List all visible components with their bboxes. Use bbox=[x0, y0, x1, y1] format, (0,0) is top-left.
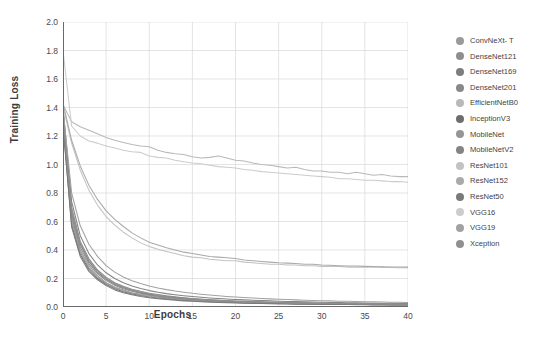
legend-color-swatch-icon bbox=[456, 240, 464, 248]
legend-item[interactable]: DenseNet201 bbox=[456, 80, 552, 96]
legend-label: ResNet152 bbox=[470, 177, 508, 185]
legend-item[interactable]: EfficientNetB0 bbox=[456, 95, 552, 111]
legend-item[interactable]: MobileNetV2 bbox=[456, 142, 552, 158]
legend-label: DenseNet201 bbox=[470, 84, 516, 92]
legend-item[interactable]: ResNet101 bbox=[456, 158, 552, 174]
legend-color-swatch-icon bbox=[456, 84, 464, 92]
x-axis-tick-label: 35 bbox=[350, 311, 380, 321]
y-axis-tick-labels: 0.00.20.40.60.81.01.21.41.61.82.0 bbox=[20, 22, 58, 307]
legend-color-swatch-icon bbox=[456, 162, 464, 170]
legend-label: DenseNet169 bbox=[470, 68, 516, 76]
legend-item[interactable]: VGG19 bbox=[456, 220, 552, 236]
legend-color-swatch-icon bbox=[456, 99, 464, 107]
legend-item[interactable]: ResNet152 bbox=[456, 173, 552, 189]
legend-item[interactable]: DenseNet169 bbox=[456, 64, 552, 80]
legend-label: VGG16 bbox=[470, 209, 495, 217]
y-axis-tick-label: 0.6 bbox=[24, 217, 58, 227]
legend-label: ResNet50 bbox=[470, 193, 504, 201]
legend-label: ResNet101 bbox=[470, 162, 508, 170]
legend-color-swatch-icon bbox=[456, 115, 464, 123]
legend-item[interactable]: InceptionV3 bbox=[456, 111, 552, 127]
legend-item[interactable]: Xception bbox=[456, 236, 552, 252]
legend-label: MobileNetV2 bbox=[470, 146, 513, 154]
legend-color-swatch-icon bbox=[456, 177, 464, 185]
chart-legend: ConvNeXt- TDenseNet121DenseNet169DenseNe… bbox=[456, 33, 552, 251]
y-axis-tick-label: 1.6 bbox=[24, 74, 58, 84]
y-axis-tick-label: 1.4 bbox=[24, 103, 58, 113]
legend-label: ConvNeXt- T bbox=[470, 37, 514, 45]
legend-item[interactable]: VGG16 bbox=[456, 205, 552, 221]
legend-color-swatch-icon bbox=[456, 208, 464, 216]
legend-color-swatch-icon bbox=[456, 193, 464, 201]
x-axis-title: Epochs bbox=[0, 309, 345, 320]
chart-screenshot: 0.00.20.40.60.81.01.21.41.61.82.0 051015… bbox=[0, 0, 556, 362]
y-axis-tick-label: 1.2 bbox=[24, 131, 58, 141]
y-axis-tick-label: 0.8 bbox=[24, 188, 58, 198]
legend-item[interactable]: ConvNeXt- T bbox=[456, 33, 552, 49]
y-axis-tick-label: 2.0 bbox=[24, 17, 58, 27]
legend-color-swatch-icon bbox=[456, 37, 464, 45]
legend-label: MobileNet bbox=[470, 131, 504, 139]
y-axis-tick-label: 0.4 bbox=[24, 245, 58, 255]
legend-color-swatch-icon bbox=[456, 224, 464, 232]
legend-color-swatch-icon bbox=[456, 130, 464, 138]
legend-label: DenseNet121 bbox=[470, 53, 516, 61]
legend-color-swatch-icon bbox=[456, 52, 464, 60]
legend-item[interactable]: DenseNet121 bbox=[456, 49, 552, 65]
legend-item[interactable]: ResNet50 bbox=[456, 189, 552, 205]
x-axis-tick-label: 40 bbox=[393, 311, 423, 321]
y-axis-tick-label: 1.8 bbox=[24, 46, 58, 56]
legend-label: InceptionV3 bbox=[470, 115, 510, 123]
y-axis-tick-label: 0.2 bbox=[24, 274, 58, 284]
y-axis-title: Training Loss bbox=[9, 50, 20, 170]
legend-color-swatch-icon bbox=[456, 68, 464, 76]
legend-label: VGG19 bbox=[470, 224, 495, 232]
legend-item[interactable]: MobileNet bbox=[456, 127, 552, 143]
legend-label: Xception bbox=[470, 240, 500, 248]
legend-label: EfficientNetB0 bbox=[470, 99, 518, 107]
y-axis-tick-label: 1.0 bbox=[24, 160, 58, 170]
training-loss-line-chart bbox=[63, 22, 408, 307]
legend-color-swatch-icon bbox=[456, 146, 464, 154]
plot-area bbox=[63, 22, 408, 307]
